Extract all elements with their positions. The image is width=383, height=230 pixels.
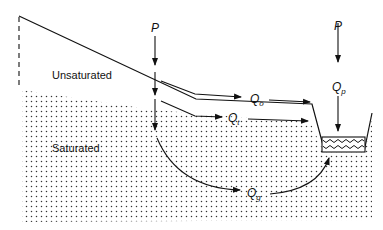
label-qp: Qp [332, 80, 346, 96]
label-qt: Qt [228, 111, 240, 127]
label-precip-channel: P [334, 19, 342, 33]
hillslope-diagram: P P Unsaturated Saturated Qo Qt Qg Qp [0, 0, 383, 230]
overland-flow-arrow [269, 100, 310, 102]
label-unsaturated: Unsaturated [52, 69, 112, 81]
saturated-zone [22, 90, 372, 222]
label-qo: Qo [250, 92, 264, 108]
label-saturated: Saturated [52, 142, 100, 154]
label-precip-hillslope: P [151, 21, 159, 35]
water-waves [323, 138, 364, 151]
overland-flow-line [161, 81, 241, 97]
